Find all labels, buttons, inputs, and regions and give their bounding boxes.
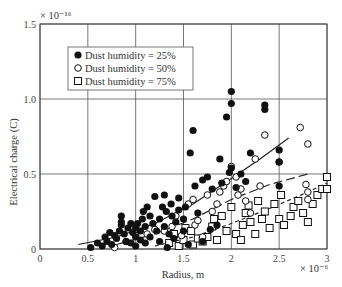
- data-point-50: [214, 201, 221, 208]
- data-point-25: [153, 227, 160, 234]
- data-point-25: [276, 158, 283, 165]
- legend-item-50: Dust humidity = 50%: [85, 63, 176, 74]
- open-square-icon: [75, 78, 82, 85]
- data-point-25: [228, 100, 235, 107]
- data-point-50: [190, 196, 197, 203]
- data-point-75: [324, 186, 331, 193]
- data-point-25: [164, 244, 171, 251]
- data-point-25: [228, 164, 235, 171]
- data-point-25: [189, 127, 196, 134]
- data-point-50: [217, 189, 224, 196]
- data-point-75: [247, 219, 254, 226]
- legend: Dust humidity = 25% Dust humidity = 50% …: [68, 47, 193, 90]
- x-tick-label: 0.5: [82, 253, 95, 264]
- data-point-50: [305, 196, 312, 203]
- data-point-25: [223, 113, 230, 120]
- x-tick-label: 1: [133, 253, 138, 264]
- data-point-50: [204, 192, 211, 199]
- data-point-25: [218, 179, 225, 186]
- data-point-25: [191, 182, 198, 189]
- data-point-50: [305, 189, 312, 196]
- x-multiplier: × 10⁻⁶: [300, 263, 329, 274]
- legend-item-25: Dust humidity = 25%: [85, 50, 176, 61]
- data-point-75: [287, 213, 294, 220]
- y-tick-label: 0: [31, 244, 36, 255]
- data-point-75: [218, 213, 225, 220]
- data-points: [87, 88, 330, 251]
- data-point-25: [146, 212, 153, 219]
- data-point-25: [139, 215, 146, 222]
- data-point-25: [142, 223, 149, 230]
- data-point-25: [182, 203, 189, 210]
- data-point-75: [278, 192, 285, 199]
- data-point-25: [228, 88, 235, 95]
- data-point-75: [188, 228, 195, 235]
- data-point-25: [167, 200, 174, 207]
- data-point-75: [295, 198, 302, 205]
- data-point-25: [233, 184, 240, 191]
- data-point-75: [271, 201, 278, 208]
- data-point-25: [170, 235, 177, 242]
- y-tick-label: 0.5: [24, 169, 37, 180]
- x-tick-label: 2.5: [273, 253, 286, 264]
- data-point-50: [247, 210, 254, 217]
- data-point-25: [118, 218, 125, 225]
- x-tick-labels: 00.511.522.53: [38, 253, 330, 264]
- x-tick-label: 2: [229, 253, 234, 264]
- data-point-75: [280, 222, 287, 229]
- data-point-25: [132, 242, 139, 249]
- data-point-50: [257, 183, 264, 190]
- data-point-25: [156, 215, 163, 222]
- data-point-50: [209, 208, 216, 215]
- data-point-25: [113, 235, 120, 242]
- x-tick-label: 1.5: [177, 253, 190, 264]
- data-point-75: [239, 222, 246, 229]
- data-point-50: [252, 156, 259, 163]
- data-point-25: [172, 218, 179, 225]
- data-point-25: [180, 215, 187, 222]
- data-point-75: [223, 228, 230, 235]
- y-tick-label: 1.5: [24, 19, 37, 30]
- data-point-25: [161, 191, 168, 198]
- data-point-50: [242, 198, 249, 205]
- legend-item-75: Dust humidity = 75%: [85, 76, 176, 87]
- data-point-25: [161, 223, 168, 230]
- data-point-75: [266, 225, 273, 232]
- data-point-25: [144, 203, 151, 210]
- data-point-25: [207, 226, 214, 233]
- fit-curves: [78, 138, 327, 246]
- open-circle-icon: [75, 65, 82, 72]
- y-multiplier: × 10⁻¹⁶: [40, 10, 72, 21]
- data-point-50: [297, 124, 304, 131]
- data-point-25: [209, 185, 216, 192]
- y-axis-label: Electrical charge (C): [8, 118, 20, 206]
- data-point-25: [142, 239, 149, 246]
- data-point-75: [237, 237, 244, 244]
- data-point-75: [300, 210, 307, 217]
- data-point-25: [237, 170, 244, 177]
- data-point-25: [216, 155, 223, 162]
- filled-circle-icon: [74, 51, 81, 58]
- data-point-50: [303, 181, 310, 188]
- data-point-25: [180, 227, 187, 234]
- data-point-25: [151, 193, 158, 200]
- data-point-75: [252, 231, 259, 238]
- data-point-75: [255, 198, 262, 205]
- data-point-25: [242, 178, 249, 185]
- data-point-75: [258, 216, 265, 223]
- data-point-25: [108, 241, 115, 248]
- data-point-75: [324, 174, 331, 181]
- data-point-25: [247, 149, 254, 156]
- x-axis-label: Radius, m: [162, 269, 205, 280]
- data-point-25: [175, 194, 182, 201]
- data-point-75: [261, 208, 268, 215]
- data-point-25: [121, 230, 128, 237]
- data-point-25: [87, 244, 94, 251]
- data-point-25: [185, 241, 192, 248]
- data-point-25: [204, 173, 211, 180]
- data-point-50: [305, 141, 312, 148]
- data-point-25: [149, 220, 156, 227]
- data-point-75: [304, 219, 311, 226]
- data-point-25: [187, 149, 194, 156]
- y-tick-labels: 00.51.01.5: [24, 19, 37, 255]
